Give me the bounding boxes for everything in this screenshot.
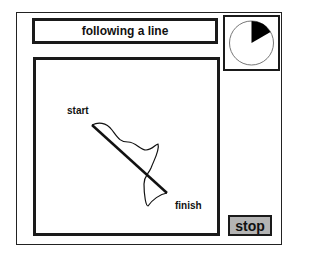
drawing-canvas[interactable]: start finish (33, 57, 220, 236)
task-title-text: following a line (82, 24, 169, 38)
task-title: following a line (32, 18, 218, 44)
finish-label: finish (175, 200, 202, 211)
timer-panel (223, 15, 280, 71)
start-label: start (67, 105, 89, 116)
stop-button[interactable]: stop (228, 215, 272, 236)
pie-timer-icon (227, 19, 276, 67)
target-line (92, 125, 167, 193)
